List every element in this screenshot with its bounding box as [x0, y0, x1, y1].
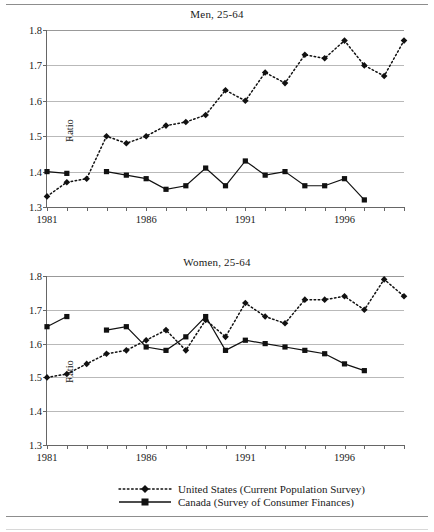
men-data-point: [243, 158, 248, 163]
men-y-tick-label: 1.3: [29, 202, 42, 213]
women-x-tick-mark: [285, 445, 286, 449]
women-data-point: [321, 296, 328, 303]
women-y-tick-label: 1.4: [29, 406, 42, 417]
men-data-point: [322, 183, 327, 188]
men-x-tick-mark: [325, 207, 326, 211]
women-data-point: [302, 348, 307, 353]
men-data-point: [83, 175, 90, 182]
men-data-point: [223, 183, 228, 188]
men-data-point: [104, 169, 109, 174]
women-data-point: [104, 327, 109, 332]
chart-title-women: Women, 25-64: [0, 256, 434, 268]
women-data-point: [123, 347, 130, 354]
women-x-tick-label: 1991: [235, 452, 256, 463]
men-x-tick-mark: [404, 207, 405, 211]
women-x-tick-mark: [206, 445, 207, 449]
women-data-point: [362, 368, 367, 373]
men-y-tick-label: 1.4: [29, 166, 42, 177]
women-series-layer: [47, 276, 404, 445]
legend-swatch-dotted-diamond: [118, 483, 172, 495]
women-data-point: [401, 293, 408, 300]
men-x-tick-label: 1991: [235, 214, 256, 225]
women-x-tick-mark: [265, 445, 266, 449]
women-series-line-0: [47, 279, 404, 377]
women-x-tick-mark: [325, 445, 326, 449]
women-x-tick-mark: [305, 445, 306, 449]
women-x-tick-mark: [186, 445, 187, 449]
chart-panel-women: Women, 25-64 Ratio 1.31.41.51.61.71.8198…: [0, 256, 434, 468]
plot-area-women: Ratio 1.31.41.51.61.71.81981198619911996: [46, 276, 404, 446]
men-data-point: [64, 171, 69, 176]
men-x-tick-label: 1986: [136, 214, 157, 225]
women-x-tick-label: 1986: [136, 452, 157, 463]
women-x-tick-mark: [146, 445, 147, 449]
men-x-tick-mark: [107, 207, 108, 211]
bottom-divider-secondary: [6, 529, 428, 530]
top-divider: [6, 4, 428, 5]
women-y-tick-label: 1.6: [29, 338, 42, 349]
men-data-point: [203, 165, 208, 170]
chart-panel-men: Men, 25-64 Ratio 1.31.41.51.61.71.819811…: [0, 8, 434, 252]
men-data-point: [123, 140, 130, 147]
men-x-tick-label: 1981: [37, 214, 58, 225]
men-data-point: [183, 183, 188, 188]
men-series-line-0: [47, 41, 404, 197]
legend-swatch-solid-square: [118, 496, 172, 508]
legend-item-canada: Canada (Survey of Consumer Finances): [0, 496, 434, 508]
men-data-point: [302, 183, 307, 188]
figure-legend: United States (Current Population Survey…: [0, 482, 434, 509]
women-data-point: [64, 371, 71, 378]
men-data-point: [401, 37, 408, 44]
women-x-tick-mark: [245, 445, 246, 449]
women-series-line-1: [107, 317, 365, 371]
women-y-tick-label: 1.7: [29, 304, 42, 315]
men-x-tick-mark: [166, 207, 167, 211]
men-data-point: [44, 193, 51, 200]
men-x-tick-label: 1996: [334, 214, 355, 225]
women-data-point: [83, 361, 90, 368]
women-x-tick-label: 1981: [37, 452, 58, 463]
legend-label-united-states: United States (Current Population Survey…: [178, 483, 365, 495]
women-x-tick-mark: [345, 445, 346, 449]
women-y-tick-label: 1.8: [29, 271, 42, 282]
men-x-tick-mark: [265, 207, 266, 211]
chart-title-men: Men, 25-64: [0, 8, 434, 20]
women-data-point: [282, 344, 287, 349]
men-data-point: [183, 119, 190, 126]
women-data-point: [163, 348, 168, 353]
women-data-point: [263, 341, 268, 346]
men-x-tick-mark: [384, 207, 385, 211]
men-data-point: [163, 187, 168, 192]
men-x-tick-mark: [186, 207, 187, 211]
women-x-tick-mark: [67, 445, 68, 449]
men-x-tick-mark: [305, 207, 306, 211]
women-series-line-1: [47, 317, 67, 327]
women-data-point: [203, 314, 208, 319]
men-x-tick-mark: [345, 207, 346, 211]
women-x-tick-mark: [166, 445, 167, 449]
men-x-tick-mark: [67, 207, 68, 211]
men-series-line-1: [47, 172, 67, 174]
men-data-point: [143, 133, 150, 140]
women-x-tick-mark: [384, 445, 385, 449]
men-y-tick-label: 1.8: [29, 25, 42, 36]
men-x-tick-mark: [47, 207, 48, 211]
legend-label-canada: Canada (Survey of Consumer Finances): [178, 496, 354, 508]
men-data-point: [103, 133, 110, 140]
men-y-tick-label: 1.5: [29, 131, 42, 142]
women-data-point: [183, 334, 188, 339]
men-series-layer: [47, 30, 404, 207]
women-data-point: [144, 344, 149, 349]
women-x-tick-label: 1996: [334, 452, 355, 463]
women-x-tick-mark: [87, 445, 88, 449]
women-x-tick-mark: [107, 445, 108, 449]
men-x-tick-mark: [206, 207, 207, 211]
women-data-point: [322, 351, 327, 356]
women-x-tick-mark: [404, 445, 405, 449]
men-x-tick-mark: [285, 207, 286, 211]
men-data-point: [342, 176, 347, 181]
men-data-point: [44, 169, 49, 174]
men-data-point: [124, 173, 129, 178]
women-x-tick-mark: [364, 445, 365, 449]
women-data-point: [124, 324, 129, 329]
